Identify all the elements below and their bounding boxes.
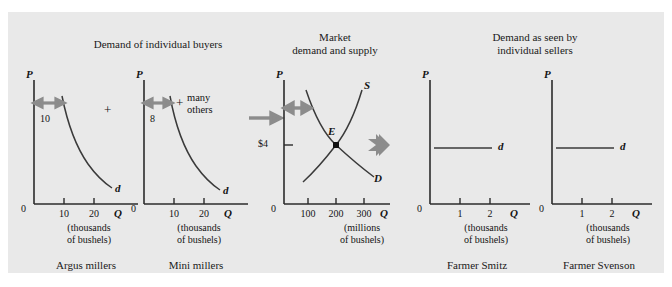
chart-farmer-svenson	[534, 72, 664, 222]
units-line-1: (thousands	[154, 222, 244, 234]
origin-label: 0	[21, 203, 26, 214]
x-axis-label: Q	[224, 207, 232, 219]
quantity-annotation: 8	[150, 113, 155, 124]
origin-label: 0	[417, 203, 422, 214]
quantity-span-arrow	[144, 99, 172, 107]
x-tick-label-2: 2	[480, 208, 500, 219]
quantity-span-arrow	[284, 103, 311, 113]
double-chevron-right-arrow-icon	[368, 134, 390, 156]
units-line-2: of bushels)	[564, 234, 652, 246]
x-tick-label-20: 20	[84, 208, 104, 219]
many-others-line-1: many	[187, 92, 213, 104]
quantity-span-arrow	[34, 99, 64, 107]
caption-mini-millers: Mini millers	[126, 259, 266, 271]
units-line-2: of bushels)	[318, 234, 406, 246]
x-axis-label: Q	[380, 207, 388, 219]
chart-farmer-smitz	[412, 72, 542, 222]
x-axis-label: Q	[632, 207, 640, 219]
units-line-1: (millions	[318, 222, 406, 234]
header-line-1: Market	[270, 31, 400, 44]
x-tick-label-100: 100	[296, 208, 320, 219]
header-demand-of-individual-buyers: Demand of individual buyers	[58, 38, 258, 51]
units-line-2: of bushels)	[154, 234, 244, 246]
panel-mini-millers: P 8 + many others d 0 10 20 Q (thousands…	[126, 72, 266, 222]
x-tick-label-20: 20	[194, 208, 214, 219]
y-axis-label: P	[544, 68, 551, 80]
many-others-line-2: others	[187, 104, 213, 116]
origin-label: 0	[271, 203, 276, 214]
curve-label-d: d	[223, 184, 229, 196]
equilibrium-point	[333, 142, 339, 148]
header-line-2: demand and supply	[270, 44, 400, 57]
header-line-1: Demand as seen by	[460, 31, 610, 44]
units-line-2: of bushels)	[442, 234, 530, 246]
chart-market	[256, 72, 406, 222]
x-axis-units: (millions of bushels)	[318, 222, 406, 246]
x-tick-label-10: 10	[54, 208, 74, 219]
curve-label-d: d	[620, 140, 626, 152]
quantity-annotation: 10	[40, 113, 50, 124]
header-line-1: Demand of individual buyers	[58, 38, 258, 51]
curve-label-d: d	[498, 140, 504, 152]
caption-farmer-svenson: Farmer Svenson	[534, 259, 664, 271]
caption-farmer-smitz: Farmer Smitz	[412, 259, 542, 271]
operator-plus-1: +	[104, 102, 111, 118]
x-axis-units: (thousands of bushels)	[442, 222, 530, 246]
units-line-2: of bushels)	[44, 234, 134, 246]
units-line-1: (thousands	[564, 222, 652, 234]
units-line-1: (thousands	[442, 222, 530, 234]
header-market-demand-and-supply: Market demand and supply	[270, 31, 400, 57]
units-line-1: (thousands	[44, 222, 134, 234]
x-axis-label: Q	[114, 207, 122, 219]
curve-label-d: d	[115, 182, 121, 194]
x-tick-label-1: 1	[450, 208, 470, 219]
x-axis-units: (thousands of bushels)	[564, 222, 652, 246]
x-axis-units: (thousands of bushels)	[44, 222, 134, 246]
price-label: $4	[258, 138, 268, 149]
origin-label: 0	[131, 203, 136, 214]
x-axis-units: (thousands of bushels)	[154, 222, 244, 246]
y-axis-label: P	[136, 68, 143, 80]
demand-label-D: D	[374, 172, 382, 184]
panel-farmer-smitz: P d 0 1 2 Q (thousands of bushels)	[412, 72, 542, 222]
x-axis-label: Q	[510, 207, 518, 219]
y-axis-label: P	[422, 68, 429, 80]
supply-label-S: S	[364, 79, 370, 91]
demand-curve-D	[306, 90, 374, 177]
y-axis-label: P	[276, 68, 283, 80]
origin-label: 0	[539, 203, 544, 214]
x-tick-label-10: 10	[164, 208, 184, 219]
panel-farmer-svenson: P d 0 1 2 Q (thousands of bushels)	[534, 72, 664, 222]
operator-plus-2: +	[176, 95, 183, 111]
header-line-2: individual sellers	[460, 44, 610, 57]
y-axis-label: P	[26, 68, 33, 80]
figure-canvas: Demand of individual buyers Market deman…	[8, 12, 664, 273]
header-demand-as-seen-by-individual-sellers: Demand as seen by individual sellers	[460, 31, 610, 57]
x-tick-label-300: 300	[352, 208, 376, 219]
x-tick-label-1: 1	[572, 208, 592, 219]
x-tick-label-2: 2	[602, 208, 622, 219]
equilibrium-label: E	[328, 125, 335, 137]
x-tick-label-200: 200	[324, 208, 348, 219]
many-others-label: many others	[187, 92, 213, 116]
panel-market: P $4 E S D 0 100 200 300 Q (millions of …	[256, 72, 406, 222]
